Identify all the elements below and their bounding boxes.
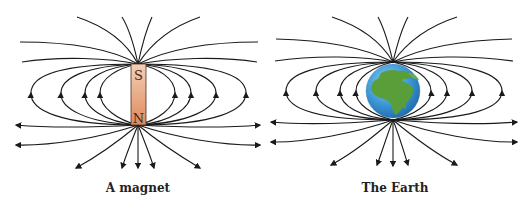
field-diagram: S N bbox=[0, 0, 531, 206]
south-pole-label: S bbox=[134, 68, 143, 83]
earth-caption: The Earth bbox=[362, 181, 429, 195]
magnet-caption: A magnet bbox=[106, 181, 170, 195]
north-pole-label: N bbox=[133, 111, 144, 126]
bar-magnet: S N bbox=[131, 64, 146, 126]
earth-globe bbox=[366, 64, 420, 118]
